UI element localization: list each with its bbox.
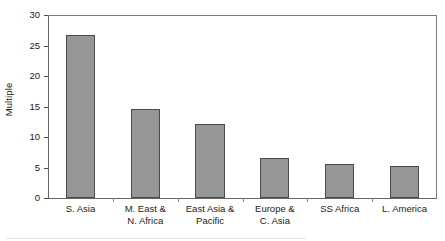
bar-chart: Multiple 051015202530 S. AsiaM. East &N.… xyxy=(0,0,445,241)
x-axis-category-label-line: Europe & xyxy=(242,203,307,215)
x-axis-category-label-line: C. Asia xyxy=(242,215,307,227)
y-axis-tick-mark xyxy=(44,76,48,77)
x-axis-category-label-line: East Asia & xyxy=(178,203,243,215)
scan-artifact-line xyxy=(6,238,306,239)
y-axis-tick-mark xyxy=(44,198,48,199)
y-axis-tick-mark xyxy=(44,15,48,16)
bar-slot xyxy=(48,15,113,198)
bar-slot xyxy=(242,15,307,198)
bar xyxy=(325,164,354,198)
y-axis-tick-mark xyxy=(44,107,48,108)
y-axis-tick-label: 15 xyxy=(29,102,40,112)
bar xyxy=(131,109,160,198)
x-axis-tick-mark xyxy=(243,198,244,202)
y-axis-tick-label: 0 xyxy=(35,193,40,203)
x-axis-category-label-line: M. East & xyxy=(113,203,178,215)
bar-slot xyxy=(178,15,243,198)
y-axis-tick-mark xyxy=(44,168,48,169)
y-axis-tick-label: 25 xyxy=(29,41,40,51)
bar xyxy=(390,166,419,198)
x-axis-tick-mark xyxy=(372,198,373,202)
x-axis-category-label: L. America xyxy=(372,203,437,237)
bars-container xyxy=(48,15,437,198)
x-axis-category-label: SS Africa xyxy=(307,203,372,237)
bar-slot xyxy=(307,15,372,198)
x-axis-category-label-line: N. Africa xyxy=(113,215,178,227)
x-axis-category-label: S. Asia xyxy=(48,203,113,237)
x-axis-tick-mark xyxy=(307,198,308,202)
bar xyxy=(66,35,95,198)
y-axis-tick-label: 30 xyxy=(29,10,40,20)
x-axis-tick-mark xyxy=(113,198,114,202)
y-axis-tick-label: 5 xyxy=(35,163,40,173)
x-axis-category-label-line: Pacific xyxy=(178,215,243,227)
bar xyxy=(195,124,224,198)
y-axis-tick-mark xyxy=(44,46,48,47)
y-axis-title: Multiple xyxy=(0,0,18,198)
x-axis-category-label-line: L. America xyxy=(372,203,437,215)
bar-slot xyxy=(372,15,437,198)
x-axis-category-label: Europe &C. Asia xyxy=(242,203,307,237)
x-axis-tick-marks xyxy=(48,198,437,202)
x-axis-category-label: M. East &N. Africa xyxy=(113,203,178,237)
bar xyxy=(260,158,289,198)
x-axis-category-label-line: S. Asia xyxy=(48,203,113,215)
x-axis-category-label-line: SS Africa xyxy=(307,203,372,215)
y-axis-tick-labels: 051015202530 xyxy=(18,0,44,199)
y-axis-tick-mark xyxy=(44,137,48,138)
y-axis-title-text: Multiple xyxy=(4,82,15,116)
x-axis-category-label: East Asia &Pacific xyxy=(178,203,243,237)
bar-slot xyxy=(113,15,178,198)
y-axis-tick-label: 10 xyxy=(29,132,40,142)
x-axis-tick-mark xyxy=(178,198,179,202)
x-axis-category-labels: S. AsiaM. East &N. AfricaEast Asia &Paci… xyxy=(48,203,437,237)
y-axis-tick-label: 20 xyxy=(29,71,40,81)
